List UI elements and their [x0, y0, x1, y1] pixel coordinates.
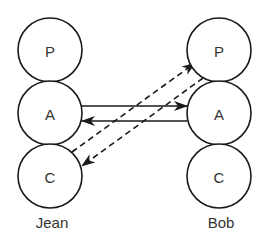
person-jean: P A C Jean: [18, 18, 82, 231]
jean-name-label: Jean: [36, 214, 69, 231]
jean-child-node[interactable]: C: [18, 144, 82, 208]
bob-parent-node[interactable]: P: [187, 18, 251, 82]
edges-layer: [72, 63, 203, 166]
jean-adult-label: A: [45, 106, 55, 123]
bob-name-label: Bob: [208, 214, 235, 231]
jean-child-label: C: [45, 169, 56, 186]
bob-adult-node[interactable]: A: [187, 81, 251, 145]
transactional-analysis-diagram: P A C Jean P A C Bob: [0, 0, 265, 238]
jean-parent-label: P: [45, 43, 55, 60]
jean-parent-node[interactable]: P: [18, 18, 82, 82]
jean-c-to-bob-p-arrow: [72, 63, 195, 152]
bob-adult-label: A: [214, 106, 224, 123]
person-bob: P A C Bob: [187, 18, 251, 231]
bob-p-to-jean-c-arrow: [82, 78, 203, 166]
bob-child-label: C: [214, 169, 225, 186]
bob-child-node[interactable]: C: [187, 144, 251, 208]
bob-parent-label: P: [214, 43, 224, 60]
jean-adult-node[interactable]: A: [18, 81, 82, 145]
